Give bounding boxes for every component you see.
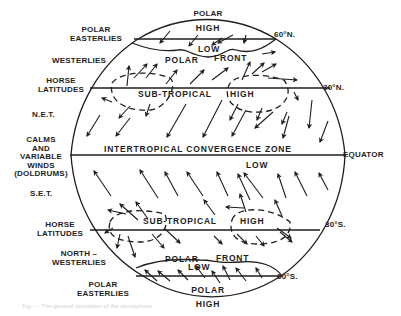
label-line: LATITUDES bbox=[36, 86, 86, 95]
westerlies-label: WESTERLIES bbox=[52, 57, 106, 66]
polar-high-south-polar: POLAR bbox=[188, 286, 228, 295]
north-westerlies-label: NORTH – WESTERLIES bbox=[48, 250, 110, 267]
horse-latitudes-south-label: HORSE LATITUDES bbox=[34, 221, 86, 238]
lat-30s-label: 30°S. bbox=[325, 221, 346, 230]
label-line: EASTERLIES bbox=[66, 35, 126, 44]
figure-caption: Fig. — The general circulation of the at… bbox=[22, 303, 382, 309]
subtropical-south-label: SUB-TROPICAL bbox=[143, 217, 217, 226]
low-equator-label: LOW bbox=[246, 161, 268, 170]
polar-high-north-label: POLAR bbox=[188, 10, 228, 19]
label-line: EASTERLIES bbox=[70, 290, 136, 299]
set-label: S.E.T. bbox=[30, 190, 53, 199]
doldrums-label: CALMS AND VARIABLE WINDS (DOLDRUMS) bbox=[10, 136, 72, 179]
high-north-label: HIGH bbox=[230, 90, 254, 99]
label-line: WESTERLIES bbox=[48, 259, 110, 268]
polar-front-south-front: FRONT bbox=[216, 254, 249, 263]
label-line: (DOLDRUMS) bbox=[10, 170, 72, 179]
polar-easterlies-north-label: POLAR EASTERLIES bbox=[66, 26, 126, 43]
label-line: POLAR bbox=[188, 10, 228, 19]
polar-easterlies-south-label: POLAR EASTERLIES bbox=[70, 281, 136, 298]
lat-30n-label: 30°N. bbox=[323, 84, 344, 93]
high-south-label: HIGH bbox=[240, 217, 264, 226]
net-label: N.E.T. bbox=[32, 111, 55, 120]
itcz-label: INTERTROPICAL CONVERGENCE ZONE bbox=[104, 145, 292, 154]
polar-front-north-polar: POLAR bbox=[165, 56, 199, 65]
lat-60s-label: 60°S. bbox=[277, 273, 298, 282]
label-line: LATITUDES bbox=[34, 230, 86, 239]
polar-high-north-high: HIGH bbox=[188, 24, 228, 33]
equator-label: EQUATOR bbox=[343, 151, 384, 160]
subtropical-north-label: SUB-TROPICAL bbox=[138, 90, 212, 99]
low-south-label: LOW bbox=[188, 263, 210, 272]
polar-front-north-front: FRONT bbox=[214, 54, 247, 63]
horse-latitudes-north-label: HORSE LATITUDES bbox=[36, 77, 86, 94]
lat-60n-label: 60°N. bbox=[274, 31, 295, 40]
globe-outline bbox=[71, 20, 345, 297]
